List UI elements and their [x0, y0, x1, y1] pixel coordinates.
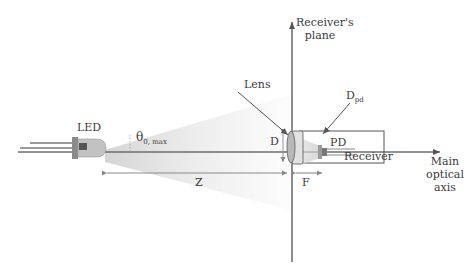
- diagram-graphics: [0, 0, 473, 270]
- optical-link-diagram: LED θ0, max Lens Receiver's plane D Dpd …: [0, 0, 473, 270]
- theta-label: θ0, max: [136, 131, 167, 149]
- receivers-plane-line2: plane: [296, 29, 344, 42]
- lens-label: Lens: [244, 78, 271, 91]
- main-optical-axis-label: Main optical axis: [425, 155, 465, 194]
- z-label: Z: [195, 176, 203, 189]
- axis-label-line3: axis: [425, 181, 465, 194]
- lens-icon: [287, 131, 303, 164]
- led-icon: [72, 137, 106, 159]
- axis-label-line1: Main: [425, 155, 465, 168]
- dpd-label: Dpd: [346, 89, 364, 107]
- led-leads: [20, 143, 75, 148]
- axis-label-line2: optical: [425, 168, 465, 181]
- receivers-plane-line1: Receiver's: [296, 16, 344, 29]
- d-label: D: [270, 135, 279, 148]
- pd-label: PD: [330, 136, 346, 149]
- receivers-plane-label: Receiver's plane: [296, 16, 344, 42]
- dpd-subscript: pd: [355, 96, 364, 104]
- dpd-pointer-arrow: [323, 103, 350, 134]
- led-label: LED: [77, 121, 101, 134]
- dpd-symbol: D: [346, 89, 355, 102]
- f-label: F: [302, 176, 310, 189]
- receiver-label: Receiver: [344, 150, 393, 163]
- theta-subscript: 0, max: [143, 138, 167, 146]
